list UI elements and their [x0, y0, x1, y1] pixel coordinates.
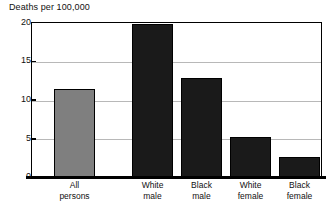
y-tick-mark-5 [31, 138, 36, 140]
bar-white-female[interactable] [230, 137, 271, 177]
x-axis-baseline [26, 176, 326, 179]
x-label-all-persons: All persons [39, 180, 110, 201]
y-tick-label-20: 20 [9, 18, 31, 27]
bar-all-persons[interactable] [54, 89, 95, 177]
x-label-line1: White [240, 180, 262, 190]
y-tick-mark-15 [31, 61, 36, 63]
x-label-line1: Black [191, 180, 212, 190]
bar-black-male[interactable] [181, 78, 222, 177]
bar-white-male[interactable] [132, 24, 173, 178]
y-tick-label-10: 10 [9, 95, 31, 104]
x-label-line1: All [70, 180, 79, 190]
x-label-line1: Black [289, 180, 310, 190]
y-tick-mark-10 [31, 99, 36, 101]
x-label-line2: female [264, 191, 328, 202]
x-label-line2: persons [39, 191, 110, 202]
x-axis-labels: All persons White male Black male White … [31, 180, 322, 212]
bars-layer [31, 22, 322, 177]
y-tick-label-0: 0 [9, 172, 31, 181]
bar-black-female[interactable] [279, 157, 320, 177]
x-label-black-female: Black female [264, 180, 328, 201]
y-tick-label-15: 15 [9, 56, 31, 65]
y-tick-label-5: 5 [9, 134, 31, 143]
bar-chart: Deaths per 100,000 20 15 10 5 0 All pers… [0, 0, 328, 213]
y-axis: 20 15 10 5 0 [0, 0, 31, 213]
x-label-line1: White [142, 180, 164, 190]
